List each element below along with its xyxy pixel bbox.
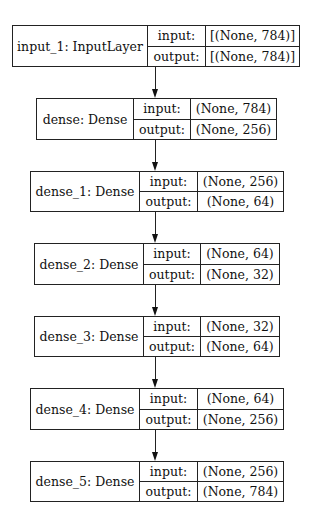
node-dense-3: dense_3: Dense input: output: (None, 32)… [34, 316, 280, 357]
arrow-down-icon [152, 452, 158, 461]
output-shape: (None, 256) [191, 120, 276, 140]
edge-line [155, 285, 156, 307]
output-shape: (None, 32) [201, 265, 279, 285]
edge-line [155, 212, 156, 234]
node-dense-1: dense_1: Dense input: output: (None, 256… [30, 171, 284, 212]
input-shape: (None, 64) [201, 244, 279, 265]
output-port-label: output: [144, 265, 200, 285]
node-label: dense: Dense [37, 99, 134, 139]
shape-values: (None, 784) (None, 256) [191, 99, 276, 139]
port-labels: input: output: [140, 172, 198, 211]
edge-line [155, 430, 156, 452]
input-shape: (None, 32) [201, 317, 279, 337]
input-shape: (None, 784) [191, 99, 276, 120]
input-shape: (None, 64) [198, 389, 283, 410]
arrow-down-icon [152, 307, 158, 316]
node-dense-4: dense_4: Dense input: output: (None, 64)… [30, 388, 284, 430]
node-dense-5: dense_5: Dense input: output: (None, 256… [30, 461, 284, 502]
output-port-label: output: [140, 482, 197, 501]
node-label: dense_5: Dense [31, 462, 140, 501]
port-labels: input: output: [144, 244, 201, 284]
output-port-label: output: [140, 410, 197, 430]
input-port-label: input: [134, 99, 190, 120]
input-port-label: input: [140, 462, 197, 482]
input-shape: (None, 256) [198, 172, 283, 192]
shape-values: (None, 32) (None, 64) [201, 317, 279, 356]
input-port-label: input: [148, 26, 205, 47]
input-port-label: input: [144, 244, 200, 265]
port-labels: input: output: [148, 26, 206, 66]
arrow-down-icon [152, 162, 158, 171]
input-port-label: input: [140, 389, 197, 410]
arrow-down-icon [152, 234, 158, 243]
shape-values: (None, 256) (None, 64) [198, 172, 283, 211]
input-shape: (None, 256) [198, 462, 283, 482]
output-shape: (None, 256) [198, 410, 283, 430]
input-port-label: input: [140, 172, 197, 192]
output-port-label: output: [140, 192, 197, 211]
node-label: dense_1: Dense [31, 172, 140, 211]
output-port-label: output: [148, 47, 205, 67]
edge-line [155, 140, 156, 163]
node-dense: dense: Dense input: output: (None, 784) … [36, 98, 277, 140]
output-shape: (None, 64) [198, 192, 283, 211]
output-shape: [(None, 784)] [206, 47, 299, 67]
port-labels: input: output: [144, 317, 201, 356]
node-label: dense_3: Dense [35, 317, 144, 356]
port-labels: input: output: [134, 99, 191, 139]
shape-values: [(None, 784)] [(None, 784)] [206, 26, 299, 66]
shape-values: (None, 64) (None, 256) [198, 389, 283, 429]
node-label: dense_4: Dense [31, 389, 140, 429]
edge-line [155, 357, 156, 379]
arrow-down-icon [152, 379, 158, 388]
node-label: dense_2: Dense [35, 244, 144, 284]
shape-values: (None, 64) (None, 32) [201, 244, 279, 284]
port-labels: input: output: [140, 389, 198, 429]
edge-line [155, 67, 156, 90]
shape-values: (None, 256) (None, 784) [198, 462, 283, 501]
output-shape: (None, 64) [201, 337, 279, 356]
arrow-down-icon [152, 89, 158, 98]
input-port-label: input: [144, 317, 200, 337]
node-label: input_1: InputLayer [13, 26, 148, 66]
node-input-1: input_1: InputLayer input: output: [(Non… [12, 25, 300, 67]
input-shape: [(None, 784)] [206, 26, 299, 47]
port-labels: input: output: [140, 462, 198, 501]
output-port-label: output: [144, 337, 200, 356]
node-dense-2: dense_2: Dense input: output: (None, 64)… [34, 243, 280, 285]
output-shape: (None, 784) [198, 482, 283, 501]
output-port-label: output: [134, 120, 190, 140]
